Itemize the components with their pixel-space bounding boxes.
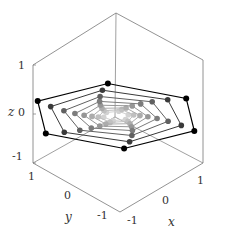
- y-axis-label: y: [64, 210, 72, 224]
- ring-vertex-marker: [191, 128, 197, 134]
- ring-vertex-marker: [97, 99, 103, 105]
- z-axis: 1 0 -1 z: [7, 59, 25, 163]
- ring-vertex-marker: [62, 130, 68, 136]
- ring-vertex-marker: [138, 101, 144, 107]
- ring-1: [35, 81, 198, 152]
- ring-vertex-marker: [89, 114, 95, 120]
- x-tick-1: 1: [197, 174, 204, 187]
- y-tick-0: 0: [64, 189, 71, 202]
- y-tick-1: 1: [28, 170, 35, 183]
- hexagon-rings: [35, 81, 198, 152]
- ring-vertex-marker: [81, 113, 87, 119]
- z-tick-minus1: -1: [12, 150, 23, 163]
- ring-vertex-marker: [130, 128, 136, 134]
- ring-vertex-marker: [121, 146, 127, 152]
- z-axis-label: z: [7, 105, 15, 119]
- x-tick-minus1: -1: [127, 214, 138, 227]
- ring-vertex-marker: [154, 116, 160, 122]
- ring-vertex-marker: [165, 119, 171, 125]
- x-axis-label: x: [168, 215, 175, 229]
- ring-vertex-marker: [137, 113, 143, 119]
- z-tick-1: 1: [18, 59, 25, 72]
- ring-vertex-marker: [72, 111, 78, 117]
- hexagon-rings-3d-plot: 1 0 -1 z 1 0 -1 y -1 0 1 x: [0, 0, 225, 235]
- ring-vertex-marker: [89, 125, 95, 131]
- ring-vertex-marker: [129, 133, 135, 139]
- ring-vertex-marker: [48, 104, 54, 110]
- ring-vertex-marker: [105, 81, 111, 87]
- ring-vertex-marker: [61, 108, 67, 114]
- ring-vertex-marker: [145, 114, 151, 120]
- ring-vertex-marker: [179, 123, 185, 129]
- ring-vertex-marker: [149, 99, 155, 105]
- y-tick-minus1: -1: [97, 209, 108, 222]
- ring-vertex-marker: [100, 87, 106, 93]
- ring-vertex-marker: [43, 131, 49, 137]
- ring-vertex-marker: [35, 98, 41, 104]
- ring-vertex-marker: [77, 127, 83, 133]
- z-tick-0: 0: [18, 106, 25, 119]
- ring-vertex-marker: [97, 94, 103, 100]
- x-tick-0: 0: [162, 194, 169, 207]
- ring-vertex-marker: [183, 95, 189, 101]
- ring-vertex-marker: [165, 97, 171, 103]
- y-axis: 1 0 -1 y: [28, 170, 108, 224]
- ring-vertex-marker: [127, 139, 133, 145]
